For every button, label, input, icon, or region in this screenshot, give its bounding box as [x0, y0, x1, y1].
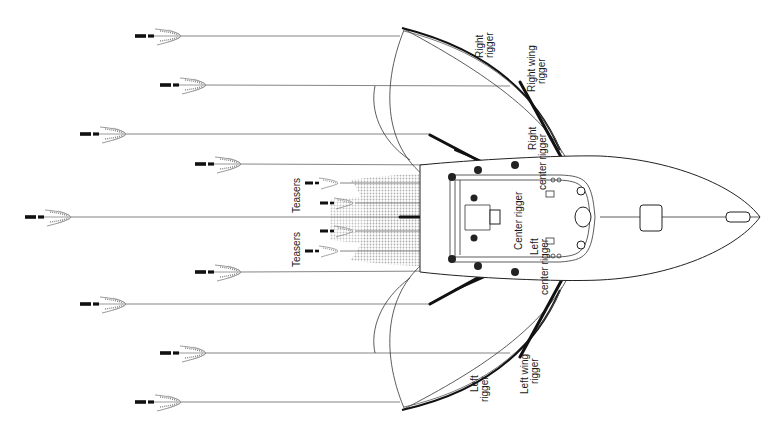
lure-icon [135, 395, 181, 411]
boat-hull [420, 156, 760, 281]
label-right-rigger: Right rigger [474, 32, 495, 58]
lure-icon [160, 346, 206, 362]
bow-pulpit [726, 212, 750, 222]
label-teasers-top: Teasers [291, 178, 302, 213]
console-box [640, 205, 662, 231]
label-right-wing-rigger: Right wing rigger [526, 43, 547, 92]
label-teasers-bottom: Teasers [291, 232, 302, 267]
label-left-wing-rigger: Left wing rigger [519, 351, 540, 394]
trolling-spread-diagram: Right rigger Right wing rigger Right cen… [0, 0, 783, 439]
lure-icon [160, 78, 206, 94]
label-left-rigger: Left rigger [469, 373, 490, 402]
lures [25, 29, 241, 411]
teaser-icon [305, 246, 338, 257]
lure-icon [195, 157, 241, 173]
label-center-rigger: Center rigger [513, 191, 524, 250]
teaser-icon [305, 178, 338, 189]
lure-icon [80, 127, 126, 143]
lure-icon [195, 265, 241, 281]
lure-icon [25, 210, 71, 226]
lure-icon [80, 297, 126, 313]
lure-icon [135, 29, 181, 45]
